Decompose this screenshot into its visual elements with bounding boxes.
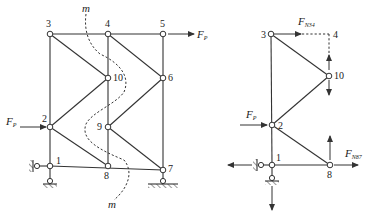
fbd-node-1	[269, 162, 275, 168]
node-1	[47, 163, 53, 169]
node-7	[160, 167, 166, 173]
node-label-1: 1	[56, 155, 61, 166]
left-truss: m m FP FP	[5, 2, 208, 210]
load-label-top: FP	[196, 28, 208, 41]
force-label-n34: FN34	[297, 15, 315, 28]
fbd-node-label-2: 2	[278, 120, 283, 131]
node-6	[160, 75, 166, 81]
support-node-1	[29, 160, 57, 188]
fbd-node-label-10: 10	[334, 70, 344, 81]
node-label-8: 8	[104, 170, 109, 181]
truss-members	[50, 34, 163, 170]
node-label-3: 3	[46, 18, 51, 29]
fbd-node-10	[326, 73, 332, 79]
node-2	[47, 124, 53, 130]
fbd-node-label-1: 1	[276, 152, 281, 163]
section-label-top: m	[82, 2, 90, 14]
fbd-node-3	[268, 31, 274, 37]
node-label-2: 2	[42, 113, 47, 124]
node-label-9: 9	[97, 121, 102, 132]
fbd-node-label-8: 8	[327, 169, 332, 180]
truss-diagram: m m FP FP	[0, 0, 365, 224]
free-body-diagram: FN34 4 FP FN87	[228, 15, 363, 210]
force-label-n87: FN87	[344, 147, 363, 160]
node-4	[105, 31, 111, 37]
fbd-node-8	[327, 162, 333, 168]
fbd-node-label-4: 4	[333, 29, 338, 40]
node-5	[160, 31, 166, 37]
node-label-7: 7	[168, 163, 173, 174]
node-label-6: 6	[168, 72, 173, 83]
fbd-node-label-3: 3	[261, 29, 266, 40]
node-label-5: 5	[160, 18, 165, 29]
load-label-left: FP	[5, 115, 17, 128]
node-8	[105, 163, 111, 169]
fbd-node-2	[269, 122, 275, 128]
node-label-4: 4	[105, 18, 110, 29]
load-label-fbd: FP	[245, 108, 257, 121]
node-label-10: 10	[113, 72, 123, 83]
node-3	[47, 31, 53, 37]
section-label-bottom: m	[108, 198, 116, 210]
node-10	[105, 75, 111, 81]
node-9	[105, 124, 111, 130]
